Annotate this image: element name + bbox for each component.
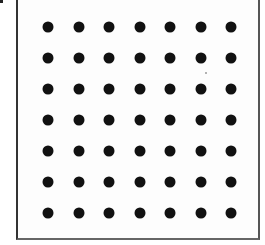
grid-dot [165,177,176,188]
grid-dot [134,84,145,95]
grid-dot [226,84,237,95]
grid-dot [134,115,145,126]
grid-dot [43,84,54,95]
grid-dot [104,208,115,219]
grid-dot [73,84,84,95]
grid-dot [104,177,115,188]
grid-dot [104,146,115,157]
grid-dot [226,208,237,219]
grid-dot [165,115,176,126]
grid-dot [226,53,237,64]
grid-dot [195,177,206,188]
grid-dot [226,177,237,188]
grid-dot [165,84,176,95]
grid-dot [226,115,237,126]
grid-dot [134,177,145,188]
grid-dot [195,84,206,95]
grid-dot [73,22,84,33]
grid-dot [165,22,176,33]
grid-dot [104,22,115,33]
grid-dot [43,208,54,219]
grid-dot [104,84,115,95]
grid-dot [165,53,176,64]
grid-dot [73,115,84,126]
grid-dot [73,146,84,157]
grid-dot [134,22,145,33]
grid-dot [195,22,206,33]
grid-dot [134,53,145,64]
grid-dot [165,146,176,157]
corner-mark [0,0,3,3]
grid-dot [195,208,206,219]
grid-dot [104,53,115,64]
grid-dot [43,115,54,126]
grid-dot [195,146,206,157]
grid-dot [165,208,176,219]
stray-speck [205,72,207,74]
grid-dot [134,208,145,219]
grid-dot [43,22,54,33]
grid-dot [104,115,115,126]
grid-dot [226,22,237,33]
grid-dot [195,115,206,126]
grid-dot [43,146,54,157]
grid-dot [134,146,145,157]
grid-dot [73,53,84,64]
grid-dot [73,177,84,188]
grid-dot [43,177,54,188]
grid-dot [226,146,237,157]
grid-dot [195,53,206,64]
grid-dot [43,53,54,64]
grid-dot [73,208,84,219]
